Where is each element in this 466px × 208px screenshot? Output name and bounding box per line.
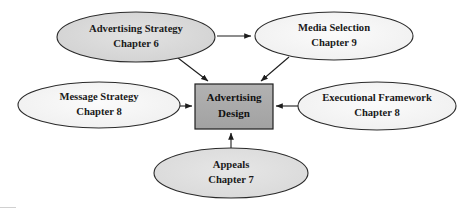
node-media-selection-line2: Chapter 9 [311, 37, 356, 48]
node-advertising-design-line1: Advertising [207, 91, 263, 103]
node-media-selection-line1: Media Selection [298, 22, 370, 33]
diagram-canvas: Advertising Strategy Chapter 6 Media Sel… [0, 0, 466, 208]
node-advertising-strategy-shape [57, 12, 215, 62]
node-advertising-strategy-line1: Advertising Strategy [89, 23, 184, 34]
node-executional-framework-shape [298, 82, 456, 130]
node-appeals-line2: Chapter 7 [208, 174, 254, 185]
node-advertising-strategy[interactable]: Advertising Strategy Chapter 6 [57, 12, 215, 62]
advertising-design-diagram: Advertising Strategy Chapter 6 Media Sel… [0, 0, 466, 208]
node-advertising-strategy-line2: Chapter 6 [113, 38, 158, 49]
node-appeals-shape [154, 148, 308, 198]
node-message-strategy-line1: Message Strategy [59, 91, 139, 102]
page-edge-artifact [0, 207, 16, 208]
node-executional-framework[interactable]: Executional Framework Chapter 8 [298, 82, 456, 130]
node-executional-framework-line1: Executional Framework [322, 92, 432, 103]
node-advertising-design-line2: Design [218, 107, 250, 119]
node-appeals[interactable]: Appeals Chapter 7 [154, 148, 308, 198]
node-message-strategy-line2: Chapter 8 [76, 106, 121, 117]
node-media-selection[interactable]: Media Selection Chapter 9 [255, 12, 413, 60]
node-media-selection-shape [255, 12, 413, 60]
node-message-strategy[interactable]: Message Strategy Chapter 8 [18, 82, 180, 128]
edge-strategy-to-design [178, 58, 208, 81]
node-appeals-line1: Appeals [213, 159, 250, 170]
node-executional-framework-line2: Chapter 8 [354, 107, 399, 118]
node-message-strategy-shape [18, 82, 180, 128]
edge-media-to-design [261, 57, 289, 81]
node-advertising-design[interactable]: Advertising Design [195, 84, 273, 129]
